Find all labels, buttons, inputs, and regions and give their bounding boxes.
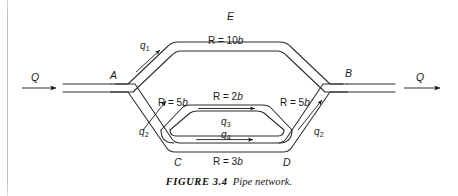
inlet-flow-label: Q — [31, 72, 39, 83]
resistance-CD-inner-symbol: b — [237, 91, 243, 102]
resistance-DB-text: R = 5 — [280, 97, 304, 108]
flow-q1-base: q — [140, 40, 146, 51]
node-label-B: B — [345, 68, 352, 79]
resistance-AEB-text: R = 10 — [208, 35, 238, 46]
resistance-CD-inner-text: R = 2 — [213, 91, 237, 102]
flow-q3-sub: 3 — [227, 121, 231, 128]
resistance-label-CD-inner: R = 2b — [213, 92, 243, 102]
node-label-E: E — [227, 11, 234, 22]
flow-q2-left-sub: 2 — [145, 131, 149, 138]
figure-caption-text: Pipe network. — [228, 176, 293, 187]
arrow-q1 — [136, 50, 160, 72]
resistance-AEB-symbol: b — [238, 35, 244, 46]
flow-label-q2-right: q2 — [314, 127, 323, 137]
pipe-inner-upper-loop — [111, 51, 347, 92]
resistance-label-AEB: R = 10b — [208, 36, 243, 46]
resistance-AC-text: R = 5 — [158, 97, 182, 108]
resistance-AC-symbol: b — [182, 97, 188, 108]
flow-q1-sub: 1 — [146, 45, 150, 52]
resistance-label-AC: R = 5b — [158, 98, 188, 108]
node-label-C: C — [174, 157, 182, 168]
figure-pipe-network: Q Q A B C D E R = 10b R = 5b R = 5b R = … — [0, 0, 458, 196]
flow-label-q1: q1 — [140, 41, 149, 51]
resistance-label-CD-outer: R = 3b — [213, 157, 243, 167]
flow-q2-right-sub: 2 — [320, 131, 324, 138]
flow-label-q2-left: q2 — [139, 127, 148, 137]
flow-q2-right-base: q — [314, 126, 320, 137]
flow-label-q4: q4 — [221, 130, 230, 140]
outlet-flow-label: Q — [416, 72, 424, 83]
flow-label-q3: q3 — [221, 117, 230, 127]
resistance-CD-outer-symbol: b — [237, 156, 243, 167]
pipe-inner-trap-right-foot — [279, 130, 292, 143]
resistance-label-DB: R = 5b — [280, 98, 310, 108]
resistance-CD-outer-text: R = 3 — [213, 156, 237, 167]
figure-caption-label: FIGURE 3.4 — [166, 176, 228, 187]
flow-q3-base: q — [221, 116, 227, 127]
resistance-DB-symbol: b — [304, 97, 310, 108]
figure-caption: FIGURE 3.4Pipe network. — [0, 176, 458, 187]
flow-q4-sub: 4 — [227, 134, 231, 141]
flow-q4-base: q — [221, 129, 227, 140]
node-label-A: A — [110, 70, 117, 81]
node-label-D: D — [283, 157, 291, 168]
flow-q2-left-base: q — [139, 126, 145, 137]
